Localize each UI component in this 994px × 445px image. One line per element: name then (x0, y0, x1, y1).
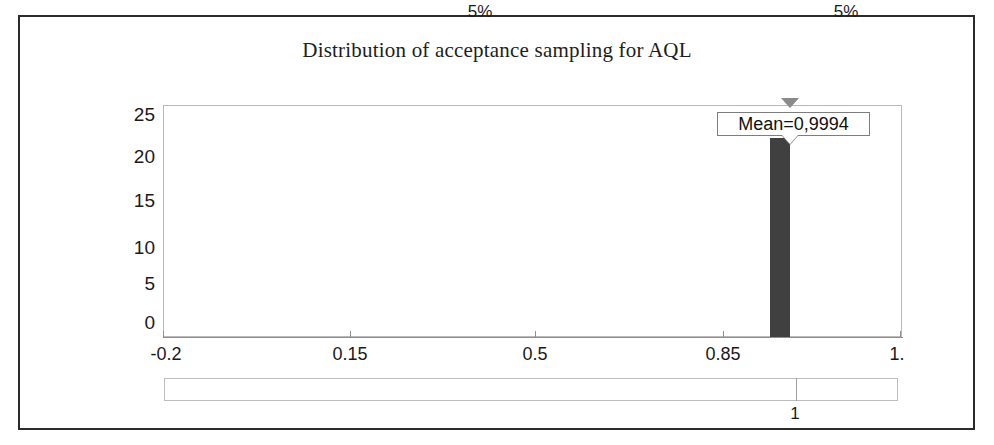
percentage-band (164, 378, 898, 401)
y-tick-label-15: 15 (95, 191, 155, 210)
x-tick-label-minus02: -0.2 (150, 344, 181, 365)
x-tick-label-1: 1. (889, 344, 904, 365)
mean-label: Mean=0,9994 (717, 112, 870, 136)
x-tick-label-085: 0.85 (705, 344, 740, 365)
x-tick-mark-1 (350, 331, 351, 338)
x-tick-mark-0 (163, 331, 164, 338)
chart-title: Distribution of acceptance sampling for … (0, 38, 994, 63)
band-cell-label-right: 5% (834, 2, 859, 22)
y-tick-label-25: 25 (95, 105, 155, 124)
y-tick-label-0: 0 (95, 313, 155, 332)
x-tick-mark-4 (900, 331, 901, 338)
histogram-bar (770, 138, 790, 337)
y-tick-label-20: 20 (95, 147, 155, 166)
y-tick-label-10: 10 (95, 238, 155, 257)
x-tick-mark-3 (723, 331, 724, 338)
mean-marker-triangle-icon (781, 98, 799, 108)
x-axis (163, 337, 903, 338)
band-divider (796, 378, 797, 401)
x-tick-label-05: 0.5 (522, 344, 547, 365)
x-tick-mark-2 (535, 331, 536, 338)
x-tick-label-015: 0.15 (332, 344, 367, 365)
band-divider-value: 1 (790, 404, 799, 424)
band-cell-label-left: 5% (468, 2, 493, 22)
y-axis: 25 20 15 10 5 0 (95, 105, 155, 337)
y-tick-label-5: 5 (95, 274, 155, 293)
mean-label-pointer-icon (782, 135, 798, 144)
